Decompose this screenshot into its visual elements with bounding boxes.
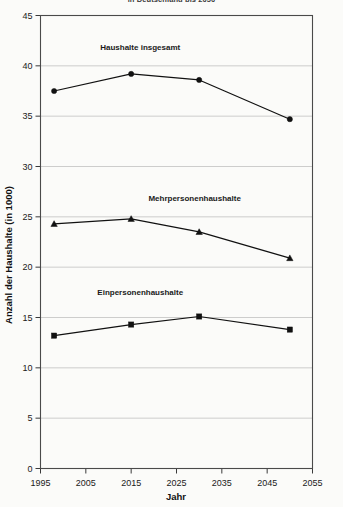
series-line bbox=[54, 74, 290, 119]
data-point-marker bbox=[52, 333, 57, 338]
gridlines-group bbox=[41, 66, 313, 418]
data-point-marker bbox=[129, 71, 134, 76]
x-axis-tick-label: 2035 bbox=[212, 478, 232, 488]
series-labels-group: Haushalte insgesamtMehrpersonenhaushalte… bbox=[97, 43, 241, 298]
data-point-marker bbox=[287, 327, 292, 332]
plot-frame bbox=[41, 16, 313, 469]
y-axis-tick-label: 30 bbox=[22, 162, 32, 172]
y-axis-tick-label: 45 bbox=[22, 11, 32, 21]
x-axis-tick-label: 1995 bbox=[30, 478, 50, 488]
series-label-1: Mehrpersonenhaushalte bbox=[148, 194, 241, 203]
y-axis-tick-label: 35 bbox=[22, 111, 32, 121]
x-axis-title: Jahr bbox=[166, 491, 186, 502]
x-axis-tick-label: 2025 bbox=[166, 478, 186, 488]
series-label-0: Haushalte insgesamt bbox=[100, 43, 180, 52]
data-point-marker bbox=[197, 77, 202, 82]
data-point-marker bbox=[197, 314, 202, 319]
chart-plot-area: 051015202530354045 199520052015202520352… bbox=[0, 0, 343, 507]
x-axis-tick-label: 2055 bbox=[302, 478, 322, 488]
series-markers-group bbox=[51, 71, 293, 338]
x-axis-tick-label: 2045 bbox=[257, 478, 277, 488]
x-axis-tick-label: 2015 bbox=[121, 478, 141, 488]
y-axis-tick-label: 15 bbox=[22, 313, 32, 323]
y-axis-tick-label: 5 bbox=[27, 413, 32, 423]
series-line bbox=[54, 219, 290, 258]
data-point-marker bbox=[129, 322, 134, 327]
y-axis-title: Anzahl der Haushalte (in 1000) bbox=[3, 186, 14, 324]
chart-container: in Deutschland bis 2050 0510152025303540… bbox=[0, 0, 343, 507]
data-point-marker bbox=[52, 88, 57, 93]
x-axis-ticks-group: 1995200520152025203520452055 bbox=[30, 469, 322, 488]
y-axis-ticks-group: 051015202530354045 bbox=[22, 11, 40, 474]
x-axis-tick-label: 2005 bbox=[76, 478, 96, 488]
y-axis-tick-label: 10 bbox=[22, 363, 32, 373]
series-label-2: Einpersonenhaushalte bbox=[97, 288, 183, 297]
y-axis-tick-label: 40 bbox=[22, 61, 32, 71]
y-axis-tick-label: 20 bbox=[22, 262, 32, 272]
y-axis-tick-label: 25 bbox=[22, 212, 32, 222]
series-line bbox=[54, 316, 290, 335]
y-axis-tick-label: 0 bbox=[27, 464, 32, 474]
data-point-marker bbox=[287, 117, 292, 122]
